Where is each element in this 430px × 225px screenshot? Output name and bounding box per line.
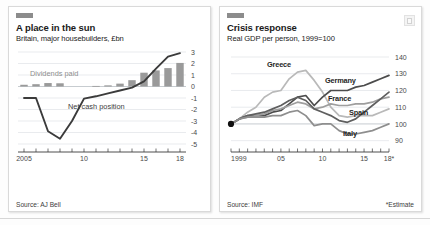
plot-area-right: 14013012011010090199905101518*GreeceGerm… [227,48,414,166]
y-tick-label: -5 [191,141,197,148]
y-tick-label: 3 [191,49,195,56]
page-subtitle: Britain, major housebuilders, £bn [16,34,203,44]
y-tick-label: 1 [191,72,195,79]
x-tick-label: 15 [140,155,148,162]
bar [20,85,27,87]
chart-panel-a-place-in-the-sun: A place in the sun Britain, major houseb… [8,6,211,212]
bar [92,86,99,87]
panels-row: A place in the sun Britain, major houseb… [0,0,430,212]
y-tick-label: 0 [191,83,195,90]
bar [152,70,159,86]
x-tick-label: 10 [319,155,327,162]
page-title: Crisis response [227,22,414,33]
chart-panel-crisis-response: Crisis response Real GDP per person, 199… [219,6,422,212]
panel-footer-right: Source: IMF *Estimate [227,201,414,208]
x-tick-label: 15 [360,155,368,162]
net-cash-line [24,53,180,139]
page-title: A place in the sun [16,22,203,33]
x-tick-label: 1999 [231,155,247,162]
y-tick-label: 100 [395,121,407,128]
source-label: Source: IMF [227,201,263,208]
y-tick-label: -1 [191,95,197,102]
bar [56,83,63,86]
page-divider [0,218,430,219]
series-label-germany: Germany [325,76,357,85]
y-tick-label: -3 [191,118,197,125]
source-label: Source: AJ Bell [16,201,61,208]
x-tick-label: 05 [277,155,285,162]
y-tick-label: 110 [395,104,406,111]
bar [176,63,183,87]
panel-footer-left: Source: AJ Bell [16,201,203,208]
net-cash-position-annotation: Net cash position [68,102,125,111]
plot-area-left: 3210-1-2-3-4-52005101518Dividends paidNe… [16,48,203,166]
x-tick-label: 18 [176,155,184,162]
y-tick-label: 140 [395,54,407,61]
y-tick-label: 130 [395,70,407,77]
series-label-italy: Italy [343,129,358,138]
y-tick-label: 120 [395,87,407,94]
panel-tab-marker [16,13,33,18]
y-tick-label: -4 [191,129,197,136]
bar [164,68,171,86]
x-tick-label: 2005 [16,155,32,162]
series-label-spain: Spain [349,108,369,117]
note-label: *Estimate [386,201,414,208]
line-chart-svg: 14013012011010090199905101518*GreeceGerm… [227,48,421,166]
dividends-paid-annotation: Dividends paid [30,69,78,78]
bar-chart-svg: 3210-1-2-3-4-52005101518Dividends paidNe… [16,48,210,166]
panel-tab-marker [227,13,244,18]
start-marker [228,121,234,127]
bar [104,85,111,86]
series-label-greece: Greece [267,60,291,69]
bar [32,84,39,86]
x-tick-label: 18* [384,155,395,162]
page-subtitle: Real GDP per person, 1999=100 [227,34,414,44]
charts-page: A place in the sun Britain, major houseb… [0,0,430,225]
y-tick-label: 2 [191,60,195,67]
y-tick-label: 90 [395,137,403,144]
expand-icon[interactable] [404,15,415,26]
series-label-france: France [328,94,351,103]
bar [116,84,123,87]
y-tick-label: -2 [191,106,197,113]
bar [44,83,51,86]
x-tick-label: 10 [80,155,88,162]
